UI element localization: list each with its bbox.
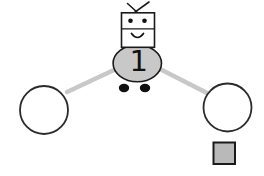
left-arm-connector xyxy=(67,70,115,93)
robot-right-foot xyxy=(140,84,150,92)
left-answer-circle[interactable] xyxy=(20,86,68,134)
answer-square-tile[interactable] xyxy=(214,143,236,165)
robot-left-eye-icon xyxy=(128,19,133,24)
robot-figure: 1 xyxy=(113,2,161,92)
robot-head xyxy=(122,13,155,48)
antenna-right-icon xyxy=(134,2,150,13)
right-answer-circle[interactable] xyxy=(204,84,252,132)
right-arm-connector xyxy=(159,69,207,94)
diagram-canvas: 1 xyxy=(0,0,264,176)
robot-number-diagram: 1 xyxy=(0,0,264,176)
robot-left-foot xyxy=(119,84,129,92)
robot-right-eye-icon xyxy=(142,19,147,24)
robot-number-label: 1 xyxy=(129,44,147,78)
